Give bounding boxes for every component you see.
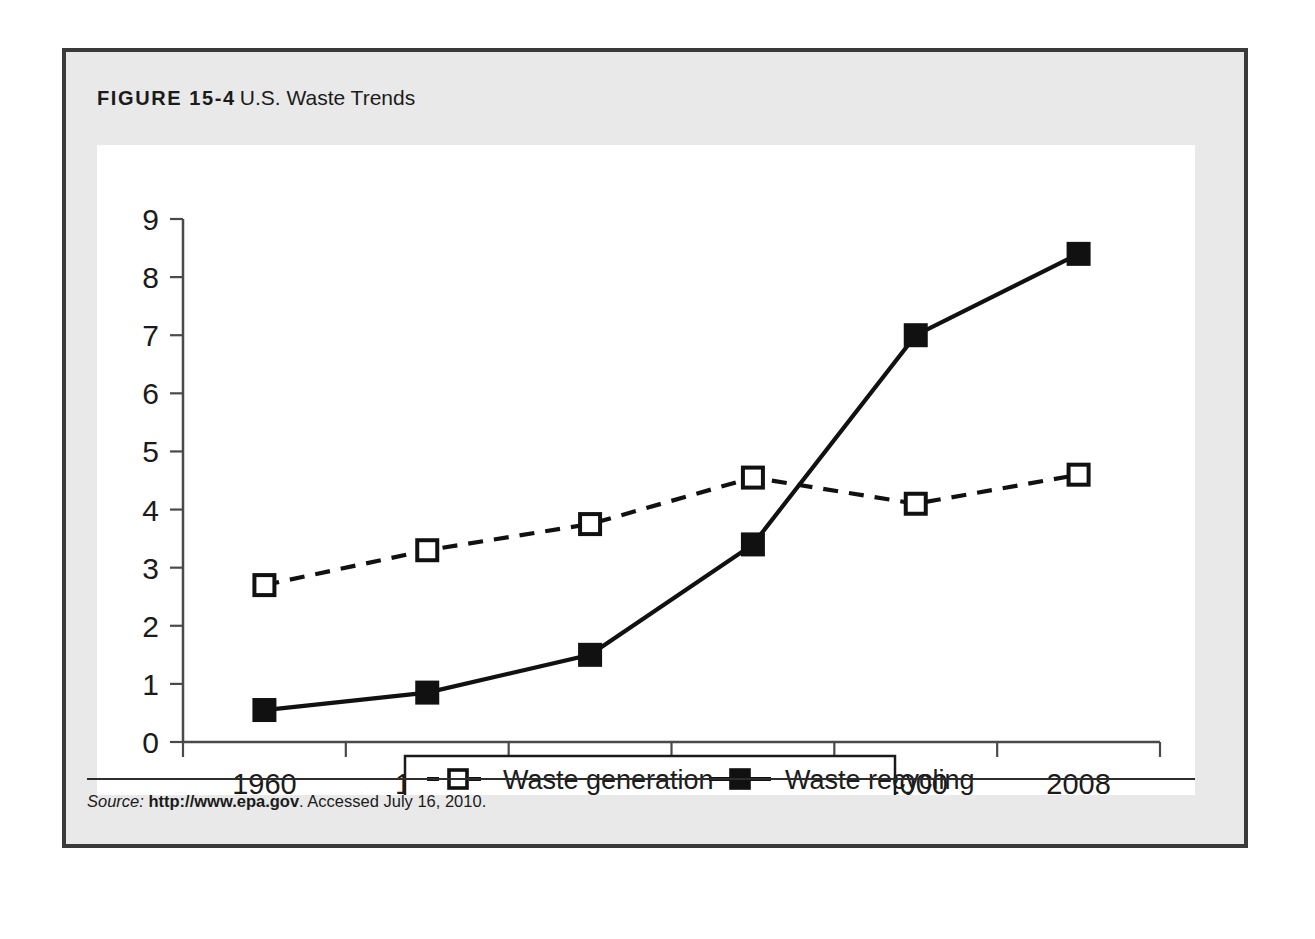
- figure-panel: FIGURE 15-4U.S. Waste Trends 0123456789 …: [62, 48, 1248, 848]
- waste-generation-marker: [254, 575, 274, 595]
- y-tick-label: 9: [142, 203, 159, 236]
- page-title: U.S. Waste Trends: [240, 86, 415, 109]
- y-tick-label: 0: [142, 726, 159, 759]
- figure-number: FIGURE 15-4: [97, 87, 236, 109]
- chart-legend: Waste generationWaste recycling: [405, 756, 975, 795]
- source-access-date: . Accessed July 16, 2010.: [299, 792, 486, 810]
- y-tick-label: 3: [142, 552, 159, 585]
- x-tick-label: 1960: [232, 768, 297, 795]
- x-tick-label: 2008: [1046, 768, 1111, 795]
- y-tick-label: 6: [142, 377, 159, 410]
- waste-recycling-marker: [417, 683, 437, 703]
- y-tick-label: 8: [142, 261, 159, 294]
- waste-recycling-marker: [743, 534, 763, 554]
- waste-generation-marker: [417, 540, 437, 560]
- waste-generation-marker: [906, 494, 926, 514]
- y-tick-label: 4: [142, 494, 159, 527]
- chart-series: [254, 465, 1088, 595]
- waste-recycling-marker: [1069, 244, 1089, 264]
- chart-series-layer: [254, 244, 1088, 720]
- waste-trends-line-chart: 0123456789 196019701980199020002008 Wast…: [97, 145, 1195, 795]
- source-label: Source:: [87, 792, 144, 810]
- chart-plot-area: 0123456789 196019701980199020002008 Wast…: [97, 145, 1195, 795]
- figure-caption: FIGURE 15-4U.S. Waste Trends: [97, 86, 415, 110]
- legend-label: Waste generation: [503, 765, 714, 795]
- waste-recycling-marker: [254, 700, 274, 720]
- waste-generation-marker: [743, 468, 763, 488]
- source-note: Source: http://www.epa.gov. Accessed Jul…: [87, 792, 486, 811]
- source-url[interactable]: http://www.epa.gov: [148, 792, 299, 810]
- waste-recycling-line: [264, 254, 1078, 710]
- y-tick-label: 1: [142, 668, 159, 701]
- legend-label: Waste recycling: [785, 765, 975, 795]
- source-divider: [87, 778, 1195, 780]
- waste-recycling-marker: [580, 645, 600, 665]
- y-tick-label: 2: [142, 610, 159, 643]
- waste-recycling-marker: [906, 325, 926, 345]
- y-axis-ticks: 0123456789: [142, 203, 183, 759]
- waste-generation-marker: [1069, 465, 1089, 485]
- chart-series: [254, 244, 1088, 720]
- legend-items: Waste generationWaste recycling: [427, 765, 975, 795]
- waste-generation-marker: [580, 514, 600, 534]
- waste-generation-line: [264, 475, 1078, 585]
- y-tick-label: 7: [142, 319, 159, 352]
- y-tick-label: 5: [142, 435, 159, 468]
